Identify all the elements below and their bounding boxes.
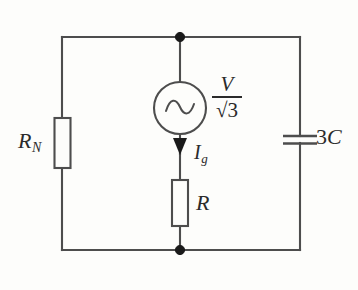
ac-source [154,82,206,134]
resistor-rn-label-symbol: R [18,128,31,153]
capacitor-3c [283,136,317,144]
ac-source-label-denominator: √3 [212,98,242,121]
ac-source-label-numerator: V [212,74,242,96]
resistor-rn-body [55,118,71,168]
capacitor-label-symbol: C [327,124,342,149]
circuit-schematic-svg [0,0,358,290]
resistor-rn [55,118,71,168]
bottom-node-dot [175,245,184,254]
current-label-subscript: g [201,151,208,166]
top-node-dot [175,32,184,41]
circuit-diagram: RN V √3 Ig R 3C [0,0,358,290]
resistor-rn-label-subscript: N [32,140,41,155]
resistor-rn-label: RN [18,130,41,155]
current-arrow-head-icon [173,138,187,155]
capacitor-label: 3C [316,126,342,148]
current-label-symbol: I [194,141,201,163]
resistor-r-label: R [196,192,209,214]
capacitor-label-coefficient: 3 [316,124,327,149]
resistor-r-body [172,180,188,226]
current-label: Ig [194,142,208,165]
current-arrow [173,138,187,155]
resistor-r [172,180,188,226]
ac-source-label: V √3 [212,74,242,121]
